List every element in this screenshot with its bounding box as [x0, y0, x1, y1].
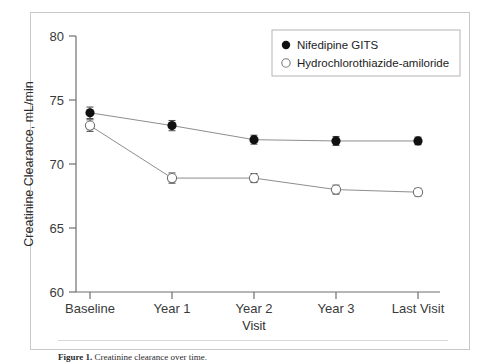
data-point-open	[413, 188, 422, 197]
figure-caption-text: Creatinine clearance over time.	[95, 352, 207, 362]
x-tick-label-year-2: Year 2	[235, 301, 272, 316]
x-axis-title: Visit	[242, 319, 266, 333]
data-point-filled	[85, 108, 94, 117]
figure-caption: Figure 1. Creatinine clearance over time…	[58, 352, 458, 362]
data-point-open	[249, 173, 258, 182]
data-point-filled	[331, 136, 340, 145]
legend-label-hydrochlorothiazide: Hydrochlorothiazide-amiloride	[297, 57, 449, 69]
chart-plot-area: 80 75 70 65 60 Baseline Year 1 Year 2 Ye…	[0, 0, 480, 362]
data-point-open	[85, 121, 94, 130]
legend-filled-circle-icon	[282, 41, 290, 49]
x-tick-label-baseline: Baseline	[65, 301, 115, 316]
caption-divider	[58, 340, 448, 341]
data-point-open	[331, 185, 340, 194]
y-axis-ticks	[69, 36, 76, 292]
legend: Nifedipine GITS Hydrochlorothiazide-amil…	[272, 30, 460, 76]
data-point-filled	[249, 135, 258, 144]
figure-caption-label: Figure 1.	[58, 352, 92, 362]
legend-box	[272, 30, 460, 76]
y-tick-label-65: 65	[50, 221, 64, 236]
legend-label-nifedipine: Nifedipine GITS	[297, 39, 379, 51]
chart-svg: 80 75 70 65 60 Baseline Year 1 Year 2 Ye…	[0, 0, 480, 362]
y-tick-label-75: 75	[50, 93, 64, 108]
x-tick-label-year-1: Year 1	[153, 301, 190, 316]
data-point-filled	[413, 136, 422, 145]
x-tick-label-last-visit: Last Visit	[392, 301, 445, 316]
series-layer	[85, 107, 422, 197]
legend-open-circle-icon	[282, 59, 290, 67]
x-tick-label-year-3: Year 3	[317, 301, 354, 316]
data-point-filled	[167, 121, 176, 130]
series-hydrochlorothiazide-amiloride	[85, 120, 422, 197]
x-axis-ticks	[90, 292, 418, 299]
y-tick-label-70: 70	[50, 157, 64, 172]
series-nifedipine-gits	[85, 107, 422, 146]
y-tick-label-80: 80	[50, 29, 64, 44]
y-axis-title: Creatinine Clearance, mL/min	[22, 81, 36, 246]
data-point-open	[167, 173, 176, 182]
y-tick-label-60: 60	[50, 285, 64, 300]
